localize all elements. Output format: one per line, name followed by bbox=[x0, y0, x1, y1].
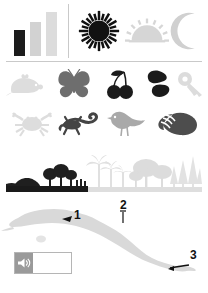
seashell-icon[interactable] bbox=[154, 105, 204, 141]
audio-player[interactable] bbox=[14, 252, 72, 274]
top-panel bbox=[0, 0, 208, 62]
map-marker-1[interactable]: 1 bbox=[74, 209, 81, 221]
vertical-divider bbox=[68, 4, 69, 58]
map-marker-3[interactable]: 3 bbox=[190, 249, 197, 261]
vegetation-panorama[interactable] bbox=[6, 150, 202, 194]
panel-divider bbox=[6, 61, 202, 62]
map-marker-2[interactable]: 2 bbox=[120, 199, 127, 211]
lizard-icon[interactable] bbox=[56, 105, 104, 141]
audio-progress-track[interactable] bbox=[33, 253, 71, 273]
icon-row-1 bbox=[0, 64, 208, 104]
beans-icon[interactable] bbox=[140, 66, 178, 102]
speaker-icon[interactable] bbox=[15, 253, 33, 273]
bar-1[interactable] bbox=[14, 30, 25, 56]
mouse-icon[interactable] bbox=[4, 66, 48, 102]
infographic-page: 1 2 3 bbox=[0, 0, 208, 293]
icon-row-2 bbox=[0, 103, 208, 143]
map-area: 1 2 3 bbox=[0, 196, 208, 293]
cherries-icon[interactable] bbox=[100, 66, 140, 102]
bar-chart bbox=[14, 12, 60, 56]
crab-icon[interactable] bbox=[8, 105, 56, 141]
butterfly-icon[interactable] bbox=[52, 66, 96, 102]
moon-icon[interactable] bbox=[164, 8, 208, 54]
bar-2[interactable] bbox=[30, 22, 41, 56]
key-icon[interactable] bbox=[176, 66, 206, 102]
sun-icon[interactable] bbox=[76, 8, 122, 54]
bar-3[interactable] bbox=[46, 12, 57, 56]
bird-icon[interactable] bbox=[104, 105, 150, 141]
